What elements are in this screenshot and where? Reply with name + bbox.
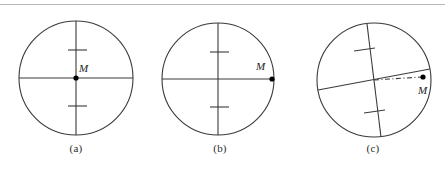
panel-b-point-m: [269, 76, 274, 81]
panel-a-group: [19, 21, 133, 135]
panel-a-point-m: [73, 75, 78, 80]
panel-a-m-label: M: [79, 62, 88, 74]
panel-a-caption: (a): [56, 142, 96, 154]
panel-b-m-label: M: [256, 60, 265, 72]
panel-c-caption: (c): [353, 142, 393, 154]
panel-c-upper-tick: [354, 48, 375, 51]
panel-c-m-label: M: [418, 84, 427, 96]
panel-b-group: [162, 23, 275, 135]
panel-c-point-m: [420, 74, 425, 79]
figure-container: M M M (a) (b) (c): [0, 0, 445, 172]
panel-c-lower-tick: [364, 110, 385, 113]
panel-b-caption: (b): [200, 142, 240, 154]
panel-c-group: [317, 23, 431, 137]
